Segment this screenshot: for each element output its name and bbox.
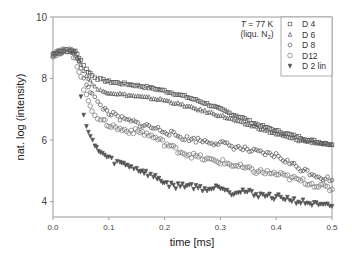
data-point <box>91 138 95 142</box>
data-point <box>136 83 140 87</box>
x-tick-label: 0.5 <box>326 223 338 232</box>
data-point <box>147 95 151 99</box>
data-point <box>243 145 247 149</box>
data-point <box>328 179 332 183</box>
data-point <box>93 95 97 99</box>
data-point <box>99 88 103 92</box>
data-point <box>181 102 185 106</box>
data-point <box>149 85 153 89</box>
data-point <box>114 81 118 85</box>
annotation-end: ) <box>271 29 274 39</box>
data-point <box>131 131 136 136</box>
y-tick-label: 8 <box>41 73 47 84</box>
data-point <box>178 135 182 139</box>
data-point <box>165 181 169 185</box>
data-point <box>85 125 89 129</box>
y-tick-label: 4 <box>41 196 47 207</box>
data-point <box>81 88 86 93</box>
temperature-annotation: T = 77 K (liqu. N2) <box>240 19 273 40</box>
annotation-liqu: (liqu. N <box>240 29 267 39</box>
data-point <box>234 145 238 149</box>
data-point <box>169 91 173 95</box>
data-point <box>95 117 100 122</box>
data-point <box>116 81 120 85</box>
x-axis-label: time [ms] <box>170 236 215 248</box>
data-point <box>174 133 178 137</box>
data-point <box>194 140 198 144</box>
data-point <box>110 156 114 160</box>
data-point <box>201 189 205 193</box>
data-point <box>299 201 303 205</box>
data-point <box>82 113 86 117</box>
data-point <box>176 134 180 138</box>
data-point <box>277 154 281 158</box>
data-point <box>86 98 91 103</box>
data-point <box>245 147 249 151</box>
data-point <box>250 190 254 194</box>
data-point <box>167 185 171 189</box>
data-point <box>268 151 272 155</box>
data-point <box>84 92 89 97</box>
data-point <box>95 145 99 149</box>
legend-label: D 8 <box>302 40 316 50</box>
data-point <box>96 100 100 104</box>
data-point <box>250 149 254 153</box>
data-point <box>75 64 80 69</box>
data-point <box>152 87 156 91</box>
y-axis-label: nat. log (intensity) <box>14 74 26 161</box>
data-point <box>290 200 294 204</box>
legend-label: D 4 <box>302 19 316 29</box>
data-point <box>111 81 115 85</box>
legend: D 4D 6D 8D12D 2 lin <box>281 17 332 76</box>
data-point <box>192 187 196 191</box>
y-tick-label: 6 <box>41 135 47 146</box>
data-point <box>143 123 147 127</box>
data-point <box>294 165 298 169</box>
data-point <box>239 191 243 195</box>
legend-label: D12 <box>302 51 318 61</box>
x-tick-label: 0.0 <box>47 223 59 232</box>
data-point <box>169 129 173 133</box>
data-point <box>199 107 203 111</box>
data-point <box>143 86 147 90</box>
data-point <box>283 198 287 202</box>
svg-text:(liqu. N2): (liqu. N2) <box>240 29 273 40</box>
data-point <box>196 136 200 140</box>
data-point <box>113 162 117 166</box>
data-point <box>221 113 225 117</box>
data-point <box>136 121 140 125</box>
data-point <box>310 203 314 207</box>
legend-label: D 2 lin <box>302 61 326 71</box>
data-point <box>223 109 227 113</box>
y-tick-label: 10 <box>36 12 48 23</box>
data-point <box>176 93 180 97</box>
data-point <box>87 130 91 134</box>
data-point <box>79 95 83 99</box>
data-point <box>326 175 330 179</box>
x-tick-label: 0.2 <box>159 223 171 232</box>
x-tick-label: 0.3 <box>215 223 227 232</box>
data-point <box>89 134 93 138</box>
data-point <box>178 185 182 189</box>
data-point <box>185 135 189 139</box>
data-point <box>257 195 261 199</box>
annotation-temp: = 77 K <box>246 19 274 29</box>
data-point <box>79 62 83 66</box>
x-tick-label: 0.4 <box>271 223 283 232</box>
data-point <box>90 82 94 86</box>
decay-chart: 0.00.10.20.30.40.546810 time [ms] nat. l… <box>0 0 352 262</box>
data-point <box>146 174 150 178</box>
data-point <box>272 198 276 202</box>
data-point <box>323 177 327 181</box>
x-tick-label: 0.1 <box>103 223 115 232</box>
data-point <box>232 148 236 152</box>
data-point <box>330 204 334 208</box>
svg-text:T = 77 K: T = 77 K <box>241 19 274 29</box>
data-point <box>118 118 122 122</box>
data-point <box>99 103 103 107</box>
data-point <box>190 183 194 187</box>
data-point <box>241 116 245 120</box>
data-point <box>236 144 240 148</box>
data-point <box>88 104 93 109</box>
data-point <box>90 109 95 114</box>
